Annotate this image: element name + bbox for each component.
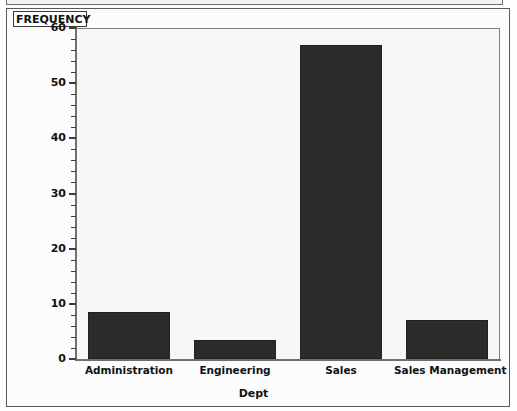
y-axis-tick-labels: 0102030405060: [0, 0, 66, 411]
y-tick-minor: [71, 216, 76, 217]
y-tick-label: 50: [0, 77, 66, 88]
y-tick-minor: [71, 238, 76, 239]
y-tick-major: [69, 82, 76, 84]
y-tick-minor: [71, 282, 76, 283]
y-tick-minor: [71, 271, 76, 272]
x-axis-line: [75, 359, 501, 361]
x-tick-label: Administration: [76, 364, 182, 376]
y-tick-major: [69, 27, 76, 29]
y-tick-minor: [71, 227, 76, 228]
y-tick-minor: [71, 348, 76, 349]
y-tick-minor: [71, 293, 76, 294]
y-tick-minor: [71, 337, 76, 338]
bar: [406, 320, 488, 359]
chart-window: FREQUENCY 0102030405060 AdministrationEn…: [0, 0, 517, 411]
y-tick-minor: [71, 160, 76, 161]
y-tick-major: [69, 193, 76, 195]
y-tick-label: 20: [0, 243, 66, 254]
window-title-strip: [6, 0, 503, 5]
y-tick-minor: [71, 105, 76, 106]
y-tick-minor: [71, 326, 76, 327]
y-tick-major: [69, 137, 76, 139]
y-tick-major: [69, 303, 76, 305]
y-tick-minor: [71, 50, 76, 51]
y-tick-major: [69, 358, 76, 360]
y-tick-label: 10: [0, 298, 66, 309]
bar: [300, 45, 382, 359]
y-tick-label: 30: [0, 188, 66, 199]
bar: [88, 312, 170, 359]
y-tick-major: [69, 248, 76, 250]
y-tick-minor: [71, 315, 76, 316]
x-tick-label: Engineering: [182, 364, 288, 376]
y-tick-minor: [71, 182, 76, 183]
y-tick-minor: [71, 116, 76, 117]
x-axis-tick-labels: AdministrationEngineeringSalesSales Mana…: [0, 364, 517, 382]
plot-area: [76, 28, 500, 360]
y-tick-minor: [71, 149, 76, 150]
y-tick-label: 40: [0, 132, 66, 143]
y-tick-label: 60: [0, 22, 66, 33]
y-tick-minor: [71, 61, 76, 62]
y-tick-minor: [71, 260, 76, 261]
y-tick-label: 0: [0, 353, 66, 364]
x-tick-label: Sales: [288, 364, 394, 376]
y-tick-minor: [71, 72, 76, 73]
x-tick-label: Sales Management: [394, 364, 500, 376]
x-axis-title: Dept: [0, 388, 507, 400]
y-tick-minor: [71, 171, 76, 172]
y-tick-minor: [71, 94, 76, 95]
y-tick-minor: [71, 39, 76, 40]
bar: [194, 340, 276, 359]
y-tick-minor: [71, 127, 76, 128]
y-tick-minor: [71, 205, 76, 206]
